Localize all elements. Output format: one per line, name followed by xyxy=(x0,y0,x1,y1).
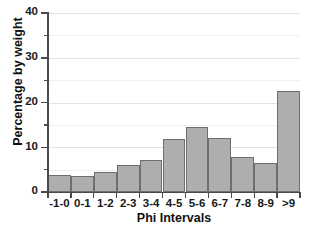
y-tick-label-0: 0 xyxy=(32,184,38,197)
x-tick-label--1-0: -1-0 xyxy=(49,196,69,210)
x-tick-label-1-2: 1-2 xyxy=(97,196,114,210)
x-tick-4 xyxy=(139,192,140,198)
bar-phi-6-7 xyxy=(208,138,231,192)
x-tick-label-7-8: 7-8 xyxy=(234,196,251,210)
x-tick-9 xyxy=(254,192,255,198)
x-tick-10 xyxy=(276,192,277,198)
bar-phi-1-2 xyxy=(94,172,117,192)
y-tick-20: 20 xyxy=(41,102,47,103)
bar-phi-gt9 xyxy=(277,91,300,192)
x-tick-11 xyxy=(299,192,300,198)
y-tick-40: 40 xyxy=(41,12,47,13)
y-tick-label-10: 10 xyxy=(25,140,38,153)
x-axis-title: Phi Intervals xyxy=(48,211,300,226)
x-tick-label-gt9: >9 xyxy=(282,196,295,210)
bar-phi-4-5 xyxy=(163,139,186,192)
chart-container: 40 30 20 10 0 -1-0 0-1 1-2 2-3 3-4 4-5 5… xyxy=(0,0,309,228)
bar-phi-8-9 xyxy=(254,163,277,192)
x-tick-8 xyxy=(231,192,232,198)
bar-phi-7-8 xyxy=(231,157,254,192)
y-tick-30: 30 xyxy=(41,57,47,58)
x-tick-label-6-7: 6-7 xyxy=(212,196,229,210)
x-tick-1 xyxy=(70,192,71,198)
x-tick-label-4-5: 4-5 xyxy=(166,196,183,210)
x-tick-label-8-9: 8-9 xyxy=(257,196,274,210)
y-tick-10: 10 xyxy=(41,147,47,148)
x-tick-2 xyxy=(93,192,94,198)
y-tick-label-30: 30 xyxy=(25,50,38,63)
x-tick-3 xyxy=(116,192,117,198)
x-tick-6 xyxy=(185,192,186,198)
x-tick-label-0-1: 0-1 xyxy=(74,196,91,210)
y-tick-label-40: 40 xyxy=(25,5,38,18)
y-axis-line xyxy=(47,12,49,193)
bar-phi-5-6 xyxy=(186,127,209,192)
bar-phi-2-3 xyxy=(117,165,140,192)
x-tick-7 xyxy=(208,192,209,198)
bar-series xyxy=(48,13,300,192)
y-tick-label-20: 20 xyxy=(25,95,38,108)
y-tick-0: 0 xyxy=(41,191,47,192)
y-tick-25 xyxy=(44,80,48,81)
bar-phi-3-4 xyxy=(140,160,163,192)
y-axis-title: Percentage by weight xyxy=(11,2,26,162)
x-tick-label-5-6: 5-6 xyxy=(189,196,206,210)
bar-phi--1-0 xyxy=(48,175,71,192)
y-tick-15 xyxy=(44,124,48,125)
x-tick-label-2-3: 2-3 xyxy=(120,196,137,210)
x-axis-line xyxy=(47,192,301,194)
y-tick-5 xyxy=(44,169,48,170)
y-tick-35 xyxy=(44,35,48,36)
x-tick-label-3-4: 3-4 xyxy=(143,196,160,210)
bar-phi-0-1 xyxy=(71,176,94,192)
x-tick-5 xyxy=(162,192,163,198)
